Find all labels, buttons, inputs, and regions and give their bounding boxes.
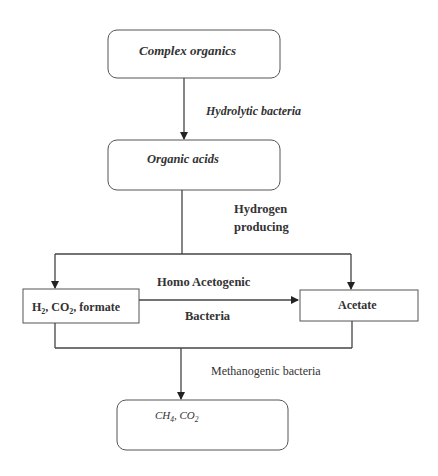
node-complex-organics: Complex organics <box>108 30 280 78</box>
complex-organics-label: Complex organics <box>139 43 236 58</box>
homo-acetogenic-label: Homo Acetogenic <box>157 275 251 289</box>
h2-co2-formate-label: H2, CO2, formate <box>32 300 121 316</box>
node-organic-acids: Organic acids <box>108 140 280 190</box>
hydrolytic-bacteria-label: Hydrolytic bacteria <box>205 104 301 118</box>
node-acetate: Acetate <box>300 290 418 321</box>
organic-acids-label: Organic acids <box>147 152 219 166</box>
acetate-label: Acetate <box>338 298 377 312</box>
node-ch4-co2: CH4, CO2 <box>117 400 288 450</box>
methanogenic-bacteria-label: Methanogenic bacteria <box>211 364 321 378</box>
hydrogen-producing-label-line1: Hydrogen <box>234 202 287 216</box>
anaerobic-digestion-flowchart: Complex organics Hydrolytic bacteria Org… <box>0 0 438 476</box>
node-h2-co2-formate: H2, CO2, formate <box>23 289 139 323</box>
bacteria-label: Bacteria <box>185 309 231 323</box>
hydrogen-producing-label-line2: producing <box>234 220 289 234</box>
